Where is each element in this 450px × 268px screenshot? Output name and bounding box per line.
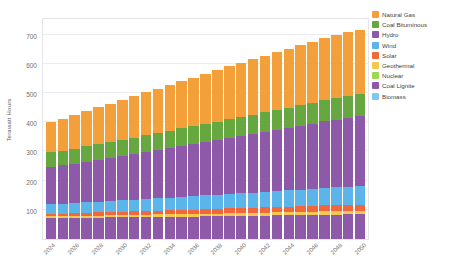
bar-segment[interactable] xyxy=(248,193,259,208)
bar-segment[interactable] xyxy=(355,186,366,204)
bar-segment[interactable] xyxy=(46,167,57,204)
bar-segment[interactable] xyxy=(176,81,187,128)
bar-segment[interactable] xyxy=(343,32,354,96)
bar-segment[interactable] xyxy=(236,117,247,136)
bar-segment[interactable] xyxy=(319,188,330,206)
bar-segment[interactable] xyxy=(200,142,211,195)
bar-segment[interactable] xyxy=(355,30,366,94)
bar-segment[interactable] xyxy=(105,104,116,143)
bar-segment[interactable] xyxy=(212,122,223,140)
bar-segment[interactable] xyxy=(129,154,140,200)
legend-item[interactable]: Solar xyxy=(372,51,448,60)
bar-segment[interactable] xyxy=(319,38,330,100)
bar-segment[interactable] xyxy=(331,120,342,188)
bar-segment[interactable] xyxy=(153,133,164,150)
bar-segment[interactable] xyxy=(295,45,306,105)
bar-segment[interactable] xyxy=(307,215,318,239)
bar-segment[interactable] xyxy=(272,191,283,207)
bar-segment[interactable] xyxy=(58,165,69,203)
bar-segment[interactable] xyxy=(93,218,104,239)
bar-segment[interactable] xyxy=(200,216,211,239)
bar-segment[interactable] xyxy=(260,192,271,208)
bar-segment[interactable] xyxy=(200,124,211,142)
bar-segment[interactable] xyxy=(355,214,366,239)
bar-segment[interactable] xyxy=(188,144,199,196)
bar-column[interactable] xyxy=(81,19,92,239)
bar-segment[interactable] xyxy=(141,92,152,135)
bar-segment[interactable] xyxy=(307,124,318,189)
bar-column[interactable] xyxy=(331,19,342,239)
bar-segment[interactable] xyxy=(248,134,259,193)
bar-segment[interactable] xyxy=(224,119,235,138)
legend-item[interactable]: Wind xyxy=(372,41,448,50)
legend-item[interactable]: Natural Gas xyxy=(372,10,448,19)
bar-segment[interactable] xyxy=(153,89,164,133)
bar-segment[interactable] xyxy=(343,96,354,118)
bar-segment[interactable] xyxy=(200,195,211,209)
bar-column[interactable] xyxy=(260,19,271,239)
legend-item[interactable]: Coal Lignite xyxy=(372,81,448,90)
bar-segment[interactable] xyxy=(212,140,223,195)
bar-segment[interactable] xyxy=(46,204,57,214)
bar-column[interactable] xyxy=(141,19,152,239)
bar-column[interactable] xyxy=(212,19,223,239)
bar-segment[interactable] xyxy=(117,200,128,211)
bar-segment[interactable] xyxy=(176,146,187,197)
bar-segment[interactable] xyxy=(93,160,104,202)
bar-segment[interactable] xyxy=(105,158,116,201)
legend-item[interactable]: Coal Bituminous xyxy=(372,20,448,29)
bar-segment[interactable] xyxy=(58,204,69,214)
bar-segment[interactable] xyxy=(188,196,199,209)
bar-segment[interactable] xyxy=(284,190,295,206)
bar-segment[interactable] xyxy=(81,111,92,147)
bar-segment[interactable] xyxy=(129,96,140,137)
bar-segment[interactable] xyxy=(93,202,104,213)
bar-segment[interactable] xyxy=(236,63,247,117)
bar-segment[interactable] xyxy=(105,142,116,158)
bar-segment[interactable] xyxy=(58,218,69,239)
bar-segment[interactable] xyxy=(224,66,235,119)
bar-segment[interactable] xyxy=(284,108,295,128)
bar-segment[interactable] xyxy=(224,216,235,239)
bar-column[interactable] xyxy=(69,19,80,239)
bar-segment[interactable] xyxy=(343,118,354,187)
bar-segment[interactable] xyxy=(176,128,187,146)
bar-segment[interactable] xyxy=(260,216,271,239)
bar-column[interactable] xyxy=(58,19,69,239)
bar-segment[interactable] xyxy=(117,100,128,140)
bar-column[interactable] xyxy=(272,19,283,239)
bar-segment[interactable] xyxy=(212,216,223,239)
bar-segment[interactable] xyxy=(260,56,271,113)
bar-column[interactable] xyxy=(46,19,57,239)
bar-segment[interactable] xyxy=(212,195,223,209)
bar-column[interactable] xyxy=(105,19,116,239)
bar-column[interactable] xyxy=(117,19,128,239)
bar-segment[interactable] xyxy=(188,217,199,239)
bar-segment[interactable] xyxy=(236,136,247,193)
bar-segment[interactable] xyxy=(248,115,259,134)
bar-segment[interactable] xyxy=(284,215,295,239)
bar-segment[interactable] xyxy=(58,151,69,166)
bar-column[interactable] xyxy=(129,19,140,239)
bar-segment[interactable] xyxy=(117,156,128,200)
bar-segment[interactable] xyxy=(165,85,176,131)
bar-segment[interactable] xyxy=(69,149,80,164)
bar-column[interactable] xyxy=(284,19,295,239)
bar-segment[interactable] xyxy=(236,193,247,208)
bar-segment[interactable] xyxy=(81,162,92,203)
bar-segment[interactable] xyxy=(93,144,104,159)
bar-column[interactable] xyxy=(236,19,247,239)
bar-segment[interactable] xyxy=(224,138,235,194)
bar-segment[interactable] xyxy=(141,199,152,211)
bar-segment[interactable] xyxy=(260,112,271,132)
bar-segment[interactable] xyxy=(272,110,283,130)
bar-segment[interactable] xyxy=(165,217,176,239)
bar-column[interactable] xyxy=(319,19,330,239)
bar-segment[interactable] xyxy=(69,218,80,239)
bar-segment[interactable] xyxy=(129,217,140,239)
bar-segment[interactable] xyxy=(81,202,92,213)
bar-segment[interactable] xyxy=(355,94,366,116)
legend-item[interactable]: Nuclear xyxy=(372,71,448,80)
bar-segment[interactable] xyxy=(200,74,211,124)
bar-segment[interactable] xyxy=(295,215,306,239)
